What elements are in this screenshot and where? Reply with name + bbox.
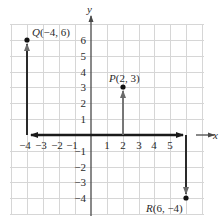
svg-text:−3: −3 <box>74 176 86 188</box>
svg-text:−2: −2 <box>51 139 63 151</box>
point-P <box>120 84 125 89</box>
point-R-label: R(6, −4) <box>145 202 183 215</box>
svg-text:−3: −3 <box>35 139 47 151</box>
svg-text:−4: −4 <box>74 192 86 204</box>
x-tick-labels: −4 −3 −2 −1 1 2 3 4 5 <box>19 139 173 151</box>
svg-text:3: 3 <box>81 81 87 93</box>
point-Q <box>24 37 29 42</box>
svg-text:5: 5 <box>81 50 87 62</box>
point-P-label: P(2, 3) <box>108 72 140 85</box>
svg-text:4: 4 <box>151 139 157 151</box>
svg-text:−2: −2 <box>74 161 86 173</box>
grid <box>10 24 204 215</box>
x-axis-label: x <box>212 129 218 141</box>
svg-text:−1: −1 <box>74 145 86 157</box>
svg-text:2: 2 <box>81 97 87 109</box>
svg-text:5: 5 <box>167 139 173 151</box>
point-Q-label: Q(−4, 6) <box>32 26 70 39</box>
svg-text:2: 2 <box>120 139 126 151</box>
svg-text:3: 3 <box>136 139 142 151</box>
svg-text:1: 1 <box>104 139 110 151</box>
coordinate-plane: y x Q(−4, 6) P(2, 3) R(6, −4) −4 −3 −2 −… <box>0 0 220 224</box>
svg-text:−4: −4 <box>19 139 31 151</box>
svg-text:4: 4 <box>81 66 87 78</box>
point-R <box>183 195 188 200</box>
svg-text:6: 6 <box>81 34 87 46</box>
y-axis-label: y <box>86 3 92 15</box>
svg-text:1: 1 <box>81 113 87 125</box>
